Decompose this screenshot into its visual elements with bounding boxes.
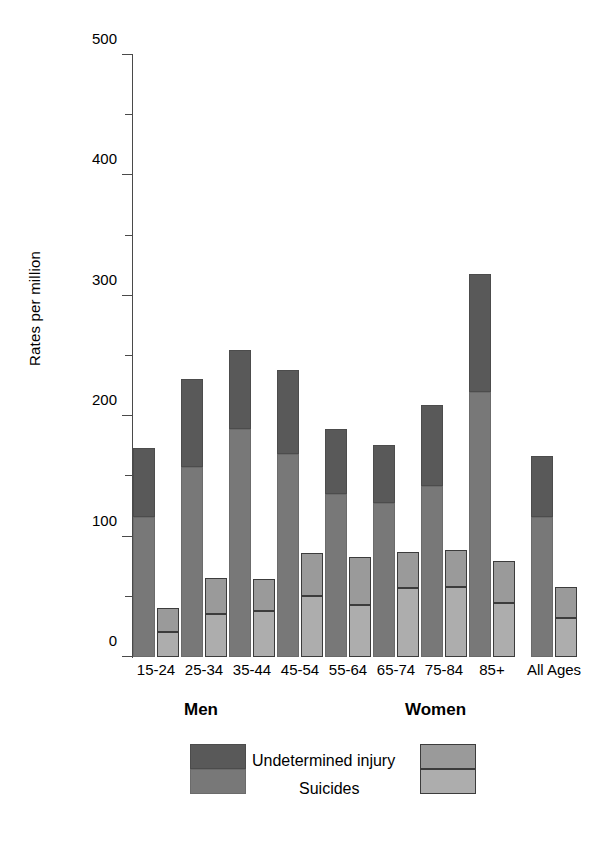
legend-label-suicides: Suicides (299, 780, 359, 798)
legend-title-men: Men (184, 700, 218, 720)
bar-women-all-ages (555, 587, 577, 657)
bar-women-25-34 (205, 578, 227, 657)
y-tick-200 (122, 415, 133, 416)
x-axis-label-all-ages: All Ages (522, 661, 586, 678)
y-tick-minor-50 (125, 596, 133, 597)
y-tick-label-500: 500 (92, 30, 117, 47)
segment-women-undetermined-injury (301, 553, 323, 595)
legend-swatch-women-undetermined (420, 744, 476, 769)
y-tick-0 (122, 656, 133, 657)
bar-women-65-74 (397, 552, 419, 657)
segment-men-suicides (277, 454, 299, 657)
segment-men-undetermined-injury (373, 445, 395, 503)
x-axis-label-85-: 85+ (460, 661, 524, 678)
y-tick-label-0: 0 (109, 632, 117, 649)
segment-men-suicides (229, 429, 251, 657)
y-tick-label-100: 100 (92, 511, 117, 528)
bar-women-45-54 (301, 553, 323, 657)
legend-swatch-men-suicides (190, 769, 246, 794)
bar-group-65-74 (373, 55, 419, 657)
y-tick-minor-350 (125, 235, 133, 236)
y-tick-minor-150 (125, 475, 133, 476)
bar-women-15-24 (157, 608, 179, 657)
bar-men-65-74 (373, 445, 395, 657)
bar-women-75-84 (445, 550, 467, 657)
segment-men-undetermined-injury (181, 379, 203, 467)
y-tick-label-400: 400 (92, 150, 117, 167)
segment-women-undetermined-injury (445, 550, 467, 587)
segment-women-suicides (349, 605, 371, 657)
bar-men-35-44 (229, 350, 251, 657)
chart-legend: Men Women Undetermined injury Suicides (0, 700, 597, 830)
y-tick-500 (122, 54, 133, 55)
plot-area: 0100200300400500 15-2425-3435-4445-5455-… (133, 55, 558, 657)
legend-swatch-men (190, 744, 246, 794)
y-tick-100 (122, 536, 133, 537)
segment-men-undetermined-injury (469, 274, 491, 392)
segment-men-undetermined-injury (421, 405, 443, 486)
bar-chart: Rates per million 0100200300400500 15-24… (0, 0, 597, 842)
bar-group-15-24 (133, 55, 179, 657)
segment-women-suicides (493, 603, 515, 657)
segment-men-suicides (325, 494, 347, 657)
bar-men-85- (469, 274, 491, 657)
y-axis-label: Rates per million (26, 209, 43, 409)
bar-women-35-44 (253, 579, 275, 657)
segment-women-undetermined-injury (253, 579, 275, 612)
segment-men-undetermined-injury (531, 456, 553, 517)
segment-women-undetermined-injury (205, 578, 227, 614)
segment-men-undetermined-injury (277, 370, 299, 453)
segment-women-undetermined-injury (493, 561, 515, 603)
segment-men-suicides (133, 517, 155, 657)
bar-women-85- (493, 561, 515, 657)
y-tick-label-300: 300 (92, 270, 117, 287)
segment-women-suicides (445, 587, 467, 657)
bar-group-85- (469, 55, 515, 657)
segment-women-undetermined-injury (397, 552, 419, 588)
segment-women-undetermined-injury (555, 587, 577, 618)
segment-women-suicides (253, 611, 275, 657)
segment-men-suicides (531, 517, 553, 657)
segment-women-suicides (205, 614, 227, 657)
y-tick-minor-450 (125, 114, 133, 115)
segment-women-undetermined-injury (349, 557, 371, 605)
segment-men-suicides (373, 503, 395, 657)
segment-men-undetermined-injury (133, 448, 155, 518)
bar-group-35-44 (229, 55, 275, 657)
bar-group-75-84 (421, 55, 467, 657)
segment-men-undetermined-injury (325, 429, 347, 494)
y-tick-minor-250 (125, 355, 133, 356)
legend-title-women: Women (405, 700, 466, 720)
segment-women-undetermined-injury (157, 608, 179, 632)
bar-men-all-ages (531, 456, 553, 657)
bar-men-15-24 (133, 448, 155, 657)
y-tick-label-200: 200 (92, 391, 117, 408)
bar-women-55-64 (349, 557, 371, 657)
y-tick-300 (122, 295, 133, 296)
segment-women-suicides (301, 596, 323, 657)
segment-women-suicides (397, 588, 419, 657)
bar-group-all-ages (531, 55, 577, 657)
bar-men-45-54 (277, 370, 299, 657)
bar-group-45-54 (277, 55, 323, 657)
bar-men-75-84 (421, 405, 443, 657)
bar-group-25-34 (181, 55, 227, 657)
segment-men-suicides (469, 392, 491, 657)
segment-women-suicides (555, 618, 577, 657)
segment-men-undetermined-injury (229, 350, 251, 429)
segment-women-suicides (157, 632, 179, 657)
legend-swatch-women (420, 744, 476, 794)
bar-men-55-64 (325, 429, 347, 657)
segment-men-suicides (421, 486, 443, 657)
legend-swatch-women-suicides (420, 769, 476, 794)
legend-label-undetermined-injury: Undetermined injury (252, 752, 395, 770)
bar-group-55-64 (325, 55, 371, 657)
legend-swatch-men-undetermined (190, 744, 246, 769)
bar-men-25-34 (181, 379, 203, 657)
y-tick-400 (122, 174, 133, 175)
segment-men-suicides (181, 467, 203, 657)
